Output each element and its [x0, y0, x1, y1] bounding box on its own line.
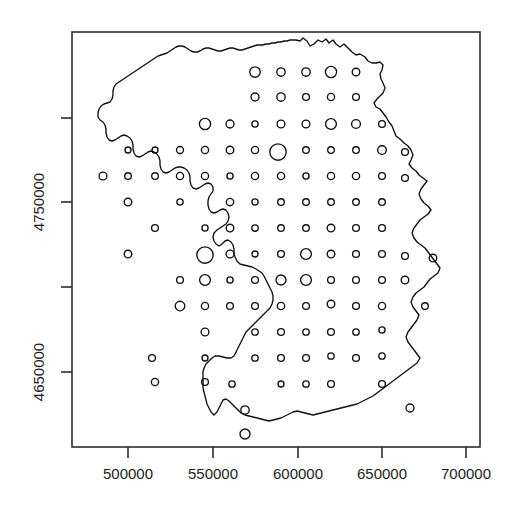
data-bubble — [201, 146, 208, 153]
x-tick-label-3: 650000 — [357, 465, 407, 482]
data-bubble — [177, 199, 183, 205]
data-bubble — [276, 275, 286, 285]
data-bubble — [240, 429, 250, 439]
data-bubble — [379, 277, 386, 284]
data-bubble — [379, 353, 385, 359]
data-bubble — [177, 147, 184, 154]
data-bubble — [379, 381, 386, 388]
data-bubble — [379, 199, 386, 206]
data-bubble — [402, 175, 409, 182]
data-bubble — [326, 119, 337, 130]
data-bubble — [202, 225, 208, 231]
map-figure: 500000 550000 600000 650000 700000 47500… — [0, 0, 521, 519]
data-bubble — [226, 250, 234, 258]
data-bubble — [303, 225, 310, 232]
data-bubble — [197, 247, 213, 263]
data-bubble — [200, 275, 211, 286]
data-bubble — [277, 68, 285, 76]
data-bubble — [201, 302, 208, 309]
data-bubble — [327, 300, 335, 308]
x-tick-label-2: 600000 — [273, 465, 323, 482]
data-bubble — [302, 120, 310, 128]
data-bubble — [277, 120, 285, 128]
data-bubble — [379, 121, 386, 128]
data-bubble — [327, 172, 334, 179]
data-bubble — [177, 277, 184, 284]
data-bubble — [352, 120, 361, 129]
data-bubble — [151, 378, 158, 385]
data-bubble — [227, 173, 233, 179]
data-bubble — [252, 329, 258, 335]
data-bubble — [353, 94, 360, 101]
coastline-path — [98, 38, 440, 421]
data-bubble — [422, 303, 429, 310]
data-bubble — [176, 172, 183, 179]
data-bubble — [378, 146, 387, 155]
data-bubble — [353, 277, 360, 284]
data-bubble — [125, 173, 132, 180]
x-tick-label-0: 500000 — [103, 465, 153, 482]
data-bubble — [402, 149, 409, 156]
bubble-layer — [99, 66, 437, 439]
data-bubble — [278, 225, 285, 232]
data-bubble — [328, 199, 335, 206]
data-bubble — [352, 68, 360, 76]
data-bubble — [303, 355, 310, 362]
plot-frame — [72, 32, 480, 447]
data-bubble — [301, 249, 312, 260]
y-axis-ticks — [61, 118, 72, 372]
data-bubble — [99, 172, 107, 180]
data-bubble — [353, 303, 360, 310]
data-bubble — [251, 146, 258, 153]
data-bubble — [325, 66, 336, 77]
data-bubble — [353, 199, 360, 206]
data-bubble — [328, 277, 335, 284]
data-bubble — [401, 276, 409, 284]
region-boundary — [98, 38, 440, 421]
data-bubble — [378, 302, 385, 309]
y-axis-tick-labels: 4750000 4650000 — [30, 173, 47, 401]
data-bubble — [303, 173, 309, 179]
data-bubble — [278, 199, 285, 206]
data-bubble — [229, 381, 235, 387]
data-bubble — [227, 277, 233, 283]
data-bubble — [379, 173, 386, 180]
data-bubble — [227, 303, 234, 310]
data-bubble — [328, 329, 335, 336]
data-bubble — [303, 329, 309, 335]
data-bubble — [327, 93, 334, 100]
data-bubble — [352, 172, 359, 179]
data-bubble — [278, 329, 285, 336]
data-bubble — [252, 303, 259, 310]
data-bubble — [241, 406, 249, 414]
data-bubble — [402, 253, 409, 260]
data-bubble — [353, 355, 360, 362]
data-bubble — [303, 381, 309, 387]
x-tick-label-1: 550000 — [188, 465, 238, 482]
data-bubble — [328, 353, 334, 359]
data-bubble — [226, 198, 233, 205]
data-bubble — [302, 68, 310, 76]
data-bubble — [252, 355, 258, 361]
data-bubble — [152, 225, 159, 232]
data-bubble — [252, 277, 259, 284]
data-bubble — [226, 120, 234, 128]
data-bubble — [278, 355, 285, 362]
data-bubble — [303, 199, 310, 206]
data-bubble — [199, 118, 210, 129]
data-bubble — [379, 225, 386, 232]
data-bubble — [303, 303, 310, 310]
data-bubble — [251, 93, 259, 101]
data-bubble — [379, 327, 385, 333]
data-bubble — [152, 173, 159, 180]
x-axis-tick-labels: 500000 550000 600000 650000 700000 — [103, 465, 491, 482]
data-bubble — [124, 250, 132, 258]
plot-svg: 500000 550000 600000 650000 700000 47500… — [0, 0, 521, 519]
data-bubble — [277, 93, 285, 101]
data-bubble — [252, 121, 258, 127]
data-bubble — [353, 329, 359, 335]
data-bubble — [124, 198, 132, 206]
data-bubble — [250, 67, 260, 77]
data-bubble — [406, 404, 414, 412]
x-tick-label-4: 700000 — [441, 465, 491, 482]
